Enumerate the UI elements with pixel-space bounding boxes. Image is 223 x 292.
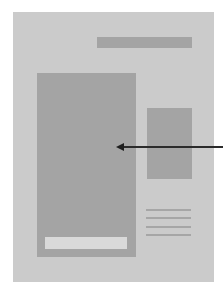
text-line-placeholder <box>146 217 191 219</box>
main-image-panel <box>37 73 136 257</box>
header-bar-placeholder <box>97 37 192 48</box>
caption-box-placeholder <box>45 237 127 249</box>
text-line-placeholder <box>146 234 191 236</box>
text-line-placeholder <box>146 226 191 228</box>
arrow-head-icon <box>116 143 124 151</box>
pointer-arrow-line <box>122 146 223 148</box>
text-line-placeholder <box>146 209 191 211</box>
side-image-panel <box>147 108 192 179</box>
